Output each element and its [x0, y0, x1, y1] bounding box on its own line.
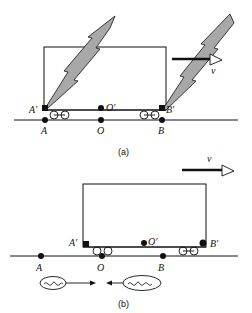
- point-o: [98, 117, 104, 123]
- train-car-b: [83, 184, 206, 247]
- light-signal-left-moving-icon: [106, 276, 161, 291]
- point-o-prime-b: [141, 240, 147, 246]
- label-a-b: A: [35, 262, 43, 273]
- label-o-prime-b: O′: [148, 236, 158, 247]
- point-a-prime: [42, 105, 48, 111]
- caption-a: (a): [118, 147, 129, 157]
- relativity-diagram: v A′ O′ B′ A O B (a) v: [0, 0, 252, 313]
- label-o-prime-a: O′: [106, 102, 116, 113]
- light-signal-right-moving-icon: [40, 277, 96, 290]
- wheels-right-b: [179, 247, 198, 255]
- point-o-b: [99, 253, 105, 259]
- caption-b: (b): [118, 299, 129, 309]
- lightning-bolt-right-icon: [163, 14, 234, 110]
- label-b-prime-a: B′: [166, 104, 175, 115]
- velocity-label-b: v: [207, 153, 212, 164]
- point-a: [42, 117, 48, 123]
- point-a-b: [38, 253, 44, 259]
- point-b-prime: [159, 105, 165, 111]
- figure-b: v A′ O′ B′ A O B: [10, 153, 238, 309]
- point-o-prime: [98, 105, 104, 111]
- label-b-prime-b: B′: [210, 238, 219, 249]
- label-o-b: O: [97, 262, 104, 273]
- velocity-arrow-b: [182, 165, 234, 176]
- point-b-prime-b: [200, 240, 207, 247]
- point-b-b: [160, 253, 166, 259]
- label-a-a: A: [40, 125, 48, 136]
- point-a-prime-b: [83, 241, 89, 247]
- label-a-prime-a: A′: [28, 104, 38, 115]
- figure-a: v A′ O′ B′ A O B (a): [14, 14, 238, 157]
- label-a-prime-b: A′: [68, 237, 78, 248]
- point-b: [159, 117, 165, 123]
- wheels-right: [140, 111, 159, 119]
- label-o-a: O: [97, 125, 104, 136]
- wheels-left: [50, 111, 69, 119]
- lightning-bolt-left-icon: [46, 16, 115, 108]
- velocity-label-a: v: [211, 65, 216, 76]
- train-car: [44, 47, 166, 110]
- label-b-a: B: [158, 125, 164, 136]
- label-b-b: B: [158, 262, 164, 273]
